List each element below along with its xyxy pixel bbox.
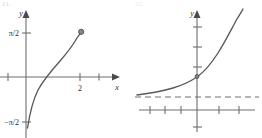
left-y-tick-label-neg-pi-over-2: −π/2 bbox=[4, 118, 19, 127]
right-y-axis-label: y bbox=[189, 9, 194, 18]
right-y-axis-arrowhead bbox=[194, 10, 201, 18]
left-x-axis-label: x bbox=[114, 83, 119, 92]
right-graph-panel: y bbox=[131, 0, 262, 138]
right-curve-y-intercept-dot bbox=[195, 75, 199, 79]
left-y-axis-arrowhead bbox=[23, 10, 30, 18]
left-graph-panel: y x π/2 −π/2 2 bbox=[0, 0, 131, 138]
left-graph-svg: y x π/2 −π/2 2 bbox=[0, 0, 131, 138]
left-curve-arctan bbox=[28, 33, 82, 129]
left-curve-endpoint-dot bbox=[79, 29, 84, 34]
right-curve-exponential bbox=[137, 9, 243, 95]
left-y-axis-label: y bbox=[18, 9, 23, 18]
left-x-axis-arrowhead bbox=[112, 74, 120, 81]
left-y-tick-label-pi-over-2: π/2 bbox=[9, 29, 19, 38]
right-graph-svg: y bbox=[131, 0, 262, 138]
figure-pair: 21. 22. y x π/2 −π/2 2 bbox=[0, 0, 262, 138]
left-x-tick-label-2: 2 bbox=[78, 84, 82, 93]
